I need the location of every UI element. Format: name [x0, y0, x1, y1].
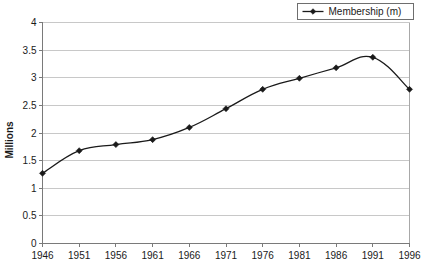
x-axis-tick-labels: 1946195119561961196619711976198119861991… — [31, 250, 421, 261]
data-point-marker: 1951: 1.68 — [76, 148, 82, 154]
data-point-marker: 1986: 3.18 — [333, 65, 339, 71]
y-tick-label: 4 — [31, 17, 37, 28]
x-tick-label: 1946 — [31, 250, 54, 261]
line-chart: 00.511.522.533.54 1946195119561961196619… — [0, 0, 431, 274]
data-point-marker: 1981: 2.99 — [296, 75, 302, 81]
data-series-membership: 1946: 1.271951: 1.681956: 1.791961: 1.88… — [40, 54, 413, 176]
y-tick-label: 1 — [31, 183, 37, 194]
y-tick-label: 0.5 — [23, 210, 37, 221]
y-axis-tick-labels: 00.511.522.533.54 — [23, 17, 37, 249]
data-point-marker: 1971: 2.44 — [223, 106, 229, 112]
data-point-marker: 1966: 2.1 — [186, 124, 192, 130]
x-tick-label: 1961 — [141, 250, 164, 261]
x-tick-label: 1991 — [362, 250, 385, 261]
y-tick-label: 2 — [31, 128, 37, 139]
x-tick-label: 1966 — [178, 250, 201, 261]
chart-canvas: 00.511.522.533.54 1946195119561961196619… — [0, 0, 431, 274]
data-point-marker: 1961: 1.88 — [150, 137, 156, 143]
x-tick-label: 1951 — [68, 250, 91, 261]
y-axis-ticks — [39, 23, 43, 244]
gridlines — [43, 23, 410, 216]
x-tick-label: 1981 — [288, 250, 311, 261]
chart-legend: Membership (m) — [298, 4, 414, 20]
x-tick-label: 1986 — [325, 250, 348, 261]
legend-entry-label: Membership (m) — [329, 6, 402, 17]
y-tick-label: 0 — [31, 238, 37, 249]
y-axis-title: Millions — [4, 121, 15, 159]
data-point-marker: 1976: 2.79 — [260, 86, 266, 92]
data-point-marker: 1956: 1.79 — [113, 142, 119, 148]
y-tick-label: 3.5 — [23, 45, 37, 56]
x-tick-label: 1971 — [215, 250, 238, 261]
series-line-membership — [43, 56, 410, 173]
x-tick-label: 1956 — [105, 250, 128, 261]
y-tick-label: 2.5 — [23, 100, 37, 111]
y-tick-label: 3 — [31, 72, 37, 83]
y-tick-label: 1.5 — [23, 155, 37, 166]
x-axis-ticks — [43, 244, 410, 248]
x-tick-label: 1976 — [252, 250, 275, 261]
data-point-marker: 1991: 3.37 — [370, 54, 376, 60]
x-tick-label: 1996 — [398, 250, 421, 261]
